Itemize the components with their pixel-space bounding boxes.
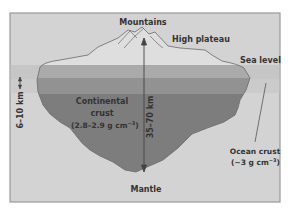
- label-crust-thickness: 35–70 km: [146, 96, 155, 139]
- label-mantle: Mantle: [130, 185, 162, 194]
- label-crust: crust: [91, 109, 114, 118]
- label-high-plateau: High plateau: [172, 35, 230, 44]
- label-sea-level: Sea level: [240, 56, 281, 65]
- continental-crust-diagram: Mountains High plateau Sea level Contine…: [0, 0, 293, 220]
- label-continental: Continental: [76, 97, 129, 106]
- label-ocean-depth: 6–10 km: [16, 91, 25, 128]
- label-ocean-crust: Ocean crust: [230, 147, 281, 156]
- label-mountains: Mountains: [119, 18, 167, 27]
